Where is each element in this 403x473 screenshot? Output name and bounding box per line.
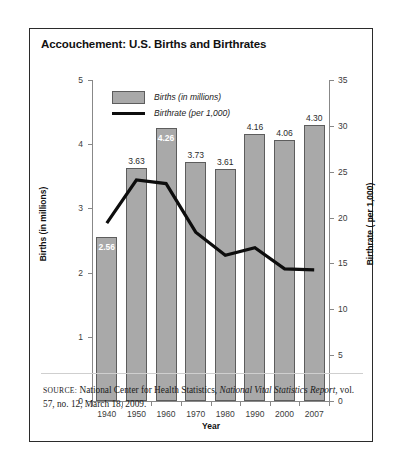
- legend-label-birthrate: Birthrate (per 1,000): [154, 108, 230, 118]
- y-axis-left-tick-label: 3: [63, 203, 83, 213]
- source-publication-title: National Vital Statistics Report: [219, 385, 335, 395]
- chart-plot-area: 012345 05101520253035 194019501960197019…: [30, 29, 374, 443]
- chart-legend: Births (in millions) Birthrate (per 1,00…: [112, 89, 230, 121]
- legend-line-swatch-icon: [112, 112, 145, 115]
- figure-frame: Accouchement: U.S. Births and Birthrates…: [29, 28, 373, 442]
- x-axis-tick-label: 2007: [294, 409, 334, 419]
- y-axis-right-tick: [330, 126, 334, 127]
- y-axis-right-tick-label: 15: [338, 258, 360, 268]
- y-axis-right-tick-label: 5: [338, 350, 360, 360]
- y-axis-right-tick-label: 25: [338, 167, 360, 177]
- y-axis-right-tick-label: 35: [338, 75, 360, 85]
- y-axis-right-tick-label: 10: [338, 304, 360, 314]
- y-axis-left-tick-label: 5: [63, 75, 83, 85]
- y-axis-right-tick: [330, 355, 334, 356]
- legend-label-births: Births (in millions): [154, 92, 221, 102]
- y-axis-right-tick: [330, 218, 334, 219]
- y-axis-right-tick-label: 20: [338, 213, 360, 223]
- source-text-part1: National Center for Health Statistics,: [77, 385, 219, 395]
- x-axis-title: Year: [92, 421, 330, 431]
- y-axis-left-tick-label: 2: [63, 268, 83, 278]
- y-axis-left-title: Births (in millions): [38, 179, 48, 269]
- y-axis-right-title: Birthrate ( per 1,000): [365, 174, 375, 274]
- y-axis-right-tick-label: 30: [338, 121, 360, 131]
- y-axis-left-tick-label: 4: [63, 139, 83, 149]
- line-series-layer: [92, 80, 330, 402]
- legend-item-birthrate: Birthrate (per 1,000): [112, 105, 230, 121]
- birthrate-line: [107, 180, 314, 270]
- source-kicker: SOURCE:: [43, 386, 77, 395]
- y-axis-left-tick-label: 1: [63, 332, 83, 342]
- legend-bar-swatch-icon: [112, 91, 145, 104]
- y-axis-right-tick: [330, 263, 334, 264]
- y-axis-right-tick: [330, 172, 334, 173]
- legend-item-births: Births (in millions): [112, 89, 230, 105]
- y-axis-right-tick: [330, 309, 334, 310]
- y-axis-right-tick: [330, 80, 334, 81]
- source-divider: [41, 373, 363, 374]
- source-note: SOURCE: National Center for Health Stati…: [43, 384, 363, 410]
